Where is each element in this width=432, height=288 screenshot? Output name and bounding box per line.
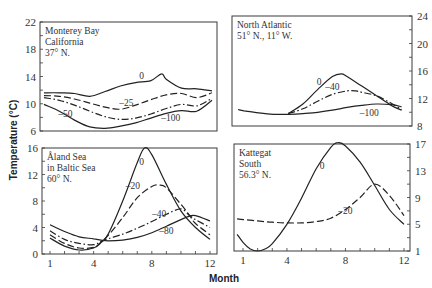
panel-title-line: South xyxy=(239,159,261,169)
series-label: –20 xyxy=(125,181,141,191)
x-axis-title: Month xyxy=(209,273,239,284)
panel-2: 812162024North Atlantic51° N., 11° W.0–4… xyxy=(232,10,429,132)
x-tick-label: 4 xyxy=(91,257,97,269)
x-tick-label: 8 xyxy=(343,254,349,266)
panel-title-line: North Atlantic xyxy=(237,20,292,30)
y-tick-label: 5 xyxy=(415,218,421,230)
panel-1: 610141822Monterey BayCalifornia37° N.0–2… xyxy=(25,16,217,137)
series-line-depth-neg80 xyxy=(50,215,210,241)
series-label: –40 xyxy=(324,82,340,92)
y-tick-label: 6 xyxy=(31,125,37,137)
panel-title-line: 37° N. xyxy=(45,48,70,58)
x-tick-label: 12 xyxy=(399,254,410,266)
series-label: 0 xyxy=(320,161,325,171)
y-tick-label: 18 xyxy=(25,43,37,55)
y-tick-label: 16 xyxy=(27,142,39,154)
panel-title-line: in Baltic Sea xyxy=(47,163,96,173)
y-axis-title: Temperature (°C) xyxy=(8,100,19,181)
y-tick-label: 13 xyxy=(415,165,427,177)
panel-title-line: 51° N., 11° W. xyxy=(237,31,292,41)
panel-title-line: Åland Sea xyxy=(47,151,87,162)
y-tick-label: 4 xyxy=(33,222,39,234)
y-tick-label: 8 xyxy=(417,120,423,132)
panel-title-line: Monterey Bay xyxy=(45,26,100,36)
series-label: –40 xyxy=(151,209,167,219)
x-tick-label: 8 xyxy=(149,257,155,269)
x-tick-label: 4 xyxy=(284,254,290,266)
panel-title-line: 60° N. xyxy=(47,174,72,184)
y-tick-label: 8 xyxy=(33,195,39,207)
panel-4: 159131714812KattegatSouth56.3° N.0–20 xyxy=(234,138,427,266)
y-tick-label: 12 xyxy=(27,169,38,181)
series-label: –100 xyxy=(160,113,180,123)
x-tick-label: 12 xyxy=(205,257,216,269)
series-line-depth-0 xyxy=(44,74,212,97)
series-label: –25 xyxy=(118,98,134,108)
series-label: 0 xyxy=(317,77,322,87)
y-tick-label: 24 xyxy=(417,10,429,22)
series-label: 0 xyxy=(139,157,144,167)
y-tick-label: 12 xyxy=(417,93,428,105)
chart-figure: 610141822Monterey BayCalifornia37° N.0–2… xyxy=(0,0,432,288)
panel-title-line: California xyxy=(45,37,84,47)
y-tick-label: 1 xyxy=(415,245,421,257)
y-tick-label: 20 xyxy=(417,38,429,50)
series-label: –20 xyxy=(337,206,353,216)
y-tick-label: 0 xyxy=(33,248,39,260)
y-tick-label: 10 xyxy=(25,98,37,110)
y-tick-label: 9 xyxy=(415,192,421,204)
y-tick-label: 16 xyxy=(417,65,429,77)
series-label: 0 xyxy=(139,71,144,81)
series-label: –80 xyxy=(158,226,174,236)
y-tick-label: 14 xyxy=(25,71,37,83)
panel-title-line: 56.3° N. xyxy=(239,170,271,180)
x-tick-label: 1 xyxy=(47,257,53,269)
x-tick-label: 1 xyxy=(240,254,246,266)
y-tick-label: 22 xyxy=(25,16,36,28)
y-tick-label: 17 xyxy=(415,138,427,150)
series-line-depth-0 xyxy=(237,143,404,251)
panel-3: 048121614812Åland Seain Baltic Sea60° N.… xyxy=(27,142,217,269)
panel-title-line: Kattegat xyxy=(239,148,272,158)
series-label: –100 xyxy=(359,108,379,118)
series-label: –50 xyxy=(57,109,73,119)
series-line-depth-neg20 xyxy=(237,184,404,223)
